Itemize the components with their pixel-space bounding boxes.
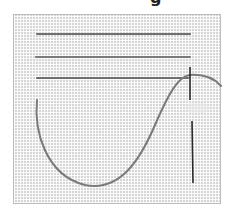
stitched-lines [36,34,190,78]
thread-shadow [186,102,210,114]
needle-shaft [192,121,193,183]
stitching-illustration [0,0,234,214]
